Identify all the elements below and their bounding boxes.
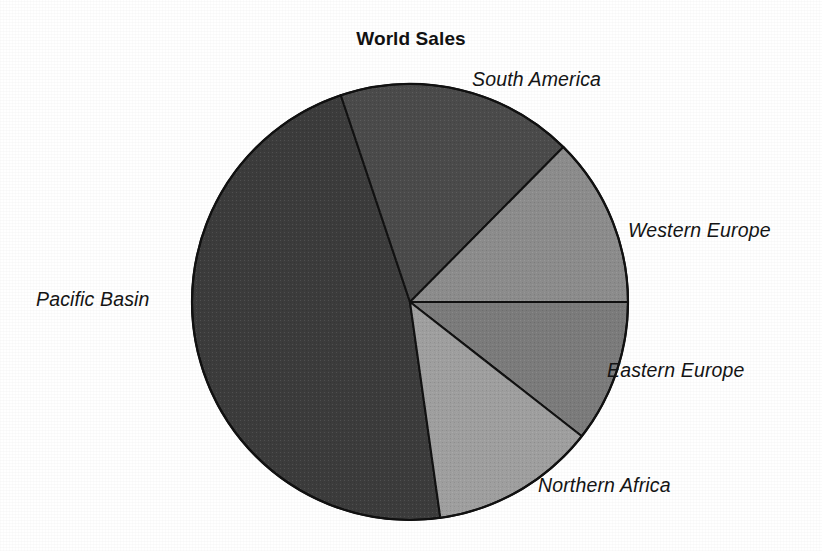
pie-label-western-europe: Western Europe bbox=[628, 219, 771, 242]
pie-label-south-america: South America bbox=[472, 68, 601, 91]
pie-label-pacific-basin: Pacific Basin bbox=[36, 288, 150, 311]
pie-chart-graphic bbox=[0, 0, 822, 551]
pie-label-eastern-europe: Eastern Europe bbox=[607, 359, 745, 382]
pie-chart-figure: World Sales South America Western Europe… bbox=[0, 0, 822, 551]
pie-label-northern-africa: Northern Africa bbox=[538, 474, 671, 497]
